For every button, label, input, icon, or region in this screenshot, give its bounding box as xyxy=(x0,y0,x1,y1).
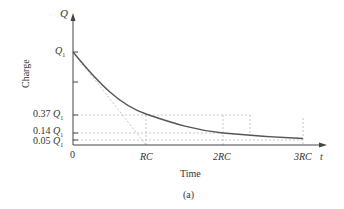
tick-origin: 0 xyxy=(70,150,75,160)
x-axis-symbol: t xyxy=(320,152,323,162)
x-axis-label: Time xyxy=(180,169,201,179)
y-axis-label: Charge xyxy=(20,59,31,88)
tick-rc: RC xyxy=(140,152,153,162)
charge-curve xyxy=(73,52,303,139)
x-axis-arrow-icon xyxy=(319,143,327,148)
y-axis-symbol: Q xyxy=(60,8,68,18)
charge-decay-plot xyxy=(0,0,344,209)
tick-005q1: 0.05 Q1 xyxy=(33,136,63,150)
figure-caption: (a) xyxy=(183,190,194,200)
tick-3rc: 3RC xyxy=(294,152,312,162)
tick-037q1: 0.37 Q1 xyxy=(33,109,63,123)
tick-2rc: 2RC xyxy=(213,152,231,162)
tick-q1: Q1 xyxy=(55,46,65,60)
y-axis-arrow-icon xyxy=(71,13,76,21)
